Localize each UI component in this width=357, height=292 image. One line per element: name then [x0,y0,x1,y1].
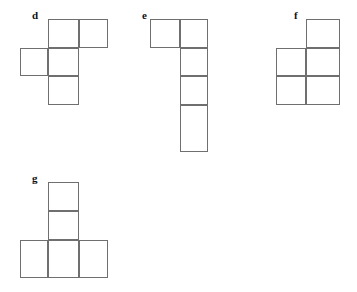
net-cell [306,19,340,48]
net-cell [180,19,208,48]
net-cell [276,48,306,76]
figure-label-f: f [294,10,298,21]
net-cell [48,19,79,48]
net-cell [180,76,208,105]
net-cell [48,240,79,278]
net-cell [180,105,208,152]
net-cell [79,19,108,48]
figure-label-e: e [142,10,147,21]
net-cell [48,211,79,240]
net-cell [48,76,79,105]
net-cell [180,48,208,76]
net-cell [306,76,340,105]
net-cell [48,48,79,76]
diagram-canvas: defg [0,0,357,292]
net-cell [150,19,180,48]
figure-label-d: d [32,10,38,21]
net-cell [79,240,108,278]
net-cell [48,182,79,211]
net-cell [276,76,306,105]
net-cell [306,48,340,76]
figure-label-g: g [32,173,38,184]
net-cell [20,48,48,76]
net-cell [20,240,48,278]
